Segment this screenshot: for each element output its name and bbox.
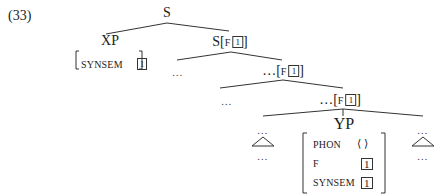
level3-right-prefix: … <box>319 92 333 107</box>
node-s-f: S[F1] <box>212 35 247 50</box>
left-sister-bottom: … <box>257 150 270 162</box>
s-f-tag: 1 <box>233 36 244 48</box>
node-level3-left: … <box>221 95 234 107</box>
yp-avm: PHON ⟨ ⟩ F 1 SYNSEM 1 <box>303 133 385 193</box>
xp-avm-row: SYNSEM 1 <box>81 54 147 72</box>
yp-avm-tag-f: 1 <box>361 158 373 170</box>
level2-right-prefix: … <box>262 63 276 78</box>
node-yp: YP <box>334 117 354 131</box>
right-sister-bottom: … <box>417 150 430 162</box>
right-sister-top: … <box>417 124 430 136</box>
yp-avm-value-phon: ⟨ ⟩ <box>357 137 368 150</box>
level3-right-tag: 1 <box>346 94 357 106</box>
xp-avm-attr: SYNSEM <box>81 59 123 70</box>
yp-avm-attr-synsem: SYNSEM <box>313 177 355 188</box>
node-level2-left: … <box>172 66 185 78</box>
s-f-feature: F <box>225 37 231 48</box>
example-number: (33) <box>8 8 31 24</box>
node-root-s: S <box>163 6 171 20</box>
node-xp: XP <box>101 34 119 48</box>
left-sister-top: … <box>257 124 270 136</box>
yp-avm-attr-phon: PHON <box>313 139 341 150</box>
node-level3-right: …[F1] <box>319 93 361 108</box>
level3-right-feature: F <box>338 95 344 106</box>
yp-avm-tag-synsem: 1 <box>361 177 373 189</box>
s-f-category: S <box>212 34 220 49</box>
right-triangle-icon <box>412 137 434 146</box>
node-level2-right: …[F1] <box>262 64 304 79</box>
level2-right-tag: 1 <box>289 65 300 77</box>
yp-avm-attr-f: F <box>313 158 319 169</box>
xp-avm-tag: 1 <box>137 58 148 70</box>
left-triangle-icon <box>252 137 274 146</box>
level2-right-feature: F <box>281 66 287 77</box>
